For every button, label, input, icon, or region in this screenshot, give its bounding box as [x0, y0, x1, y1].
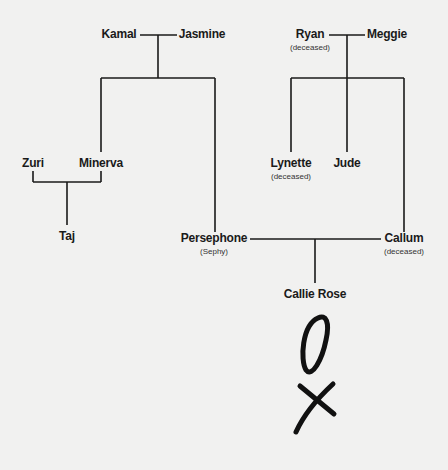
person-lynette: Lynette: [271, 156, 312, 170]
handwritten-marks: [296, 317, 334, 432]
person-meggie: Meggie: [367, 27, 407, 41]
person-ryan-note: (deceased): [290, 43, 330, 52]
person-jasmine: Jasmine: [179, 27, 226, 41]
person-taj: Taj: [59, 229, 75, 243]
person-callum: Callum: [385, 231, 424, 245]
person-ryan: Ryan: [296, 27, 325, 41]
person-persephone: Persephone: [181, 231, 248, 245]
person-lynette-note: (deceased): [271, 172, 311, 181]
person-persephone-note: (Sephy): [200, 247, 228, 256]
person-callie-rose: Callie Rose: [284, 287, 347, 301]
person-zuri: Zuri: [22, 156, 44, 170]
person-minerva: Minerva: [79, 156, 123, 170]
person-jude: Jude: [333, 156, 360, 170]
person-kamal: Kamal: [101, 27, 136, 41]
person-callum-note: (deceased): [384, 247, 424, 256]
